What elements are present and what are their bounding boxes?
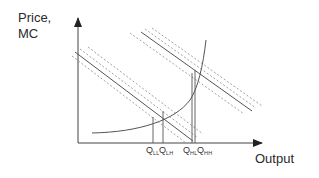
q-label-sub: LH: [166, 150, 174, 156]
y-axis-label-line1: Price,: [18, 10, 51, 26]
y-axis-label-line2: MC: [18, 26, 51, 42]
x-axis-label: Output: [255, 152, 294, 165]
low-price-band: [72, 47, 203, 143]
q-label-ll: QLL: [146, 146, 160, 157]
y-axis-label: Price, MC: [18, 10, 51, 42]
high-price-band: [130, 28, 262, 114]
q-label-main: Q: [159, 145, 166, 155]
q-label-lh: QLH: [159, 146, 174, 157]
diagram-canvas: Price, MC Output QLL QLH QHL QHH: [0, 0, 319, 178]
q-label-main: Q: [146, 145, 153, 155]
q-label-hh: QHH: [197, 146, 213, 157]
q-label-hl: QHL: [183, 146, 198, 157]
q-label-main: Q: [197, 145, 204, 155]
quantity-drop-lines: [153, 70, 195, 143]
q-label-main: Q: [183, 145, 190, 155]
q-label-sub: HH: [204, 150, 213, 156]
